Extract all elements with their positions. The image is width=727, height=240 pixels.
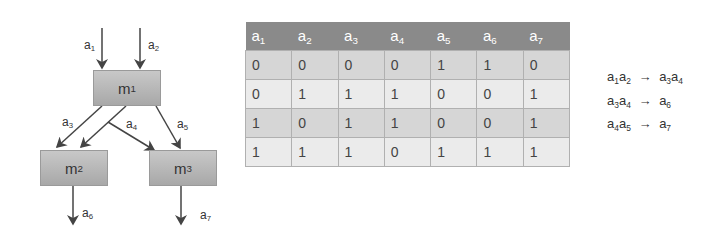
edge-label-a5: a5 [177,117,188,132]
cell: 0 [523,51,569,80]
dependency-diagram: m1 m2 m3 a1 a2 a3 a4 a5 a6 a7 [0,0,240,240]
rule-1: a1a2 → a3a4 [607,67,683,91]
truth-table: a1 a2 a3 a4 a5 a6 a7 0 0 0 0 1 1 0 0 1 1… [245,22,570,167]
header-a6: a6 [477,22,523,51]
cell: 1 [246,138,292,167]
edge-label-a2: a2 [148,38,159,53]
edge-a4-m2 [81,106,126,147]
header-a7: a7 [523,22,569,51]
rule-2: a3a4 → a6 [607,91,683,115]
cell: 1 [477,51,523,80]
node-sub: 3 [187,163,192,174]
header-a3: a3 [338,22,384,51]
cell: 1 [338,80,384,109]
cell: 1 [431,138,477,167]
dependency-rules: a1a2 → a3a4 a3a4 → a6 a4a5 → a7 [607,67,683,138]
cell: 0 [431,80,477,109]
node-label: m [174,160,187,177]
cell: 1 [292,138,338,167]
cell: 1 [246,109,292,138]
cell: 0 [384,138,430,167]
arrow-right-icon: → [639,69,652,84]
header-row: a1 a2 a3 a4 a5 a6 a7 [246,22,570,51]
arrow-right-icon: → [639,93,652,108]
arrow-right-icon: → [639,116,652,131]
table-row: 0 1 1 1 0 0 1 [246,80,570,109]
edge-label-a3: a3 [62,115,73,130]
table-row: 1 1 1 0 1 1 1 [246,138,570,167]
node-sub: 2 [78,163,83,174]
cell: 0 [477,109,523,138]
table-row: 1 0 1 1 0 0 1 [246,109,570,138]
node-m2: m2 [40,150,108,186]
edges-svg [0,0,240,240]
cell: 1 [292,80,338,109]
cell: 0 [292,51,338,80]
node-label: m [118,80,131,97]
header-a1: a1 [246,22,292,51]
cell: 1 [338,138,384,167]
cell: 1 [523,80,569,109]
header-a2: a2 [292,22,338,51]
cell: 0 [338,51,384,80]
cell: 0 [246,51,292,80]
cell: 0 [384,51,430,80]
node-m1: m1 [93,70,161,106]
cell: 1 [338,109,384,138]
cell: 0 [246,80,292,109]
cell: 1 [477,138,523,167]
node-m3: m3 [149,150,217,186]
cell: 1 [431,51,477,80]
rule-3: a4a5 → a7 [607,114,683,138]
edge-label-a4: a4 [126,117,137,132]
edge-label-a7: a7 [200,208,211,223]
cell: 0 [477,80,523,109]
cell: 1 [523,138,569,167]
cell: 0 [292,109,338,138]
cell: 1 [384,80,430,109]
node-sub: 1 [131,83,136,94]
cell: 0 [431,109,477,138]
table-row: 0 0 0 0 1 1 0 [246,51,570,80]
edge-label-a6: a6 [82,206,93,221]
cell: 1 [523,109,569,138]
cell: 1 [384,109,430,138]
header-a5: a5 [431,22,477,51]
header-a4: a4 [384,22,430,51]
edge-label-a1: a1 [84,38,95,53]
node-label: m [65,160,78,177]
